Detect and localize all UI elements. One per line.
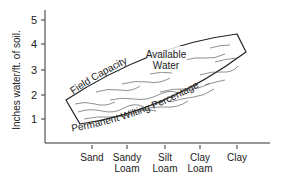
x-tick-sandy: Sandy	[113, 152, 141, 163]
y-ticks	[41, 20, 45, 119]
y-tick-5: 5	[31, 14, 37, 26]
x-tick-sandy-loam: Loam	[114, 163, 139, 174]
water-label: Water	[153, 60, 180, 71]
y-tick-3: 3	[31, 64, 37, 76]
x-tick-clay-top: Clay	[190, 152, 210, 163]
y-tick-2: 2	[31, 89, 37, 101]
y-tick-4: 4	[31, 38, 37, 50]
soil-water-chart: 1 2 3 4 5 Inches water/ft. of soil. Sand…	[0, 0, 283, 179]
available-label: Available	[146, 49, 187, 60]
y-tick-1: 1	[31, 113, 37, 125]
x-tick-sand: Sand	[80, 152, 103, 163]
x-tick-silt-loam: Loam	[152, 163, 177, 174]
x-tick-clay: Clay	[227, 152, 247, 163]
x-ticks	[92, 145, 237, 149]
x-tick-silt: Silt	[158, 152, 172, 163]
y-axis-label: Inches water/ft. of soil.	[11, 30, 22, 130]
x-tick-clay-loam: Loam	[187, 163, 212, 174]
